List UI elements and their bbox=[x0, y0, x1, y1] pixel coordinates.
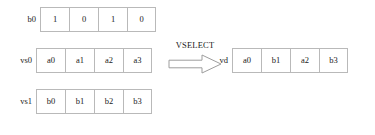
vector-row-vd: vd a0 b1 a2 b3 bbox=[212, 48, 348, 73]
vector-cells-b0: 1 0 1 0 bbox=[40, 7, 156, 32]
vector-row-vs1: vs1 b0 b1 b2 b3 bbox=[14, 89, 152, 114]
row-label-vs1: vs1 bbox=[14, 97, 36, 106]
vector-cell: a2 bbox=[290, 48, 319, 73]
vector-cell: a1 bbox=[65, 48, 94, 73]
vector-cells-vd: a0 b1 a2 b3 bbox=[232, 48, 348, 73]
vector-cells-vs0: a0 a1 a2 a3 bbox=[36, 48, 152, 73]
vector-cell: 1 bbox=[40, 7, 69, 32]
vector-cells-vs1: b0 b1 b2 b3 bbox=[36, 89, 152, 114]
vector-cell: a2 bbox=[94, 48, 123, 73]
row-label-vd: vd bbox=[212, 56, 232, 65]
vector-cell: a0 bbox=[36, 48, 65, 73]
vector-row-b0: b0 1 0 1 0 bbox=[18, 7, 156, 32]
vector-cell: b1 bbox=[261, 48, 290, 73]
vector-cell: b0 bbox=[36, 89, 65, 114]
vector-cell: b3 bbox=[319, 48, 348, 73]
row-label-b0: b0 bbox=[18, 15, 40, 24]
vector-cell: 1 bbox=[98, 7, 127, 32]
vector-cell: a0 bbox=[232, 48, 261, 73]
vector-cell: b1 bbox=[65, 89, 94, 114]
vector-cell: a3 bbox=[123, 48, 152, 73]
vector-cell: b2 bbox=[94, 89, 123, 114]
row-label-vs0: vs0 bbox=[14, 56, 36, 65]
vector-cell: 0 bbox=[69, 7, 98, 32]
vector-cell: 0 bbox=[127, 7, 156, 32]
vector-cell: b3 bbox=[123, 89, 152, 114]
vselect-diagram: b0 1 0 1 0 vs0 a0 a1 a2 a3 vs1 b0 b1 b2 … bbox=[0, 0, 375, 135]
vector-row-vs0: vs0 a0 a1 a2 a3 bbox=[14, 48, 152, 73]
